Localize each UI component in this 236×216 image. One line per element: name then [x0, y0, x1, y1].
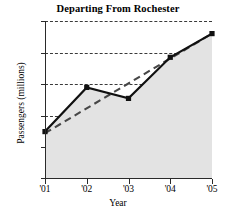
data-point-2003 [126, 96, 131, 101]
y-axis-line [45, 21, 46, 179]
plot-area: 1.5 1.4 1.3 1.2 1.1 1.0 '01 '02 [45, 21, 212, 179]
data-point-2002 [84, 85, 89, 90]
data-point-2004 [168, 55, 173, 60]
xtick-label-2002: '02 [69, 184, 105, 194]
chart-plot-svg [45, 21, 212, 179]
chart-container: Departing From Rochester Passengers (mil… [0, 0, 236, 216]
xtick-label-2001: '01 [27, 184, 63, 194]
y-axis-title: Passengers (millions) [16, 28, 26, 178]
xtick-label-2005: '05 [194, 184, 230, 194]
x-axis-title: Year [0, 198, 236, 208]
data-point-2005 [209, 31, 214, 36]
xtick-label-2004: '04 [152, 184, 188, 194]
chart-title: Departing From Rochester [0, 3, 236, 14]
xtick-label-2003: '03 [111, 184, 147, 194]
